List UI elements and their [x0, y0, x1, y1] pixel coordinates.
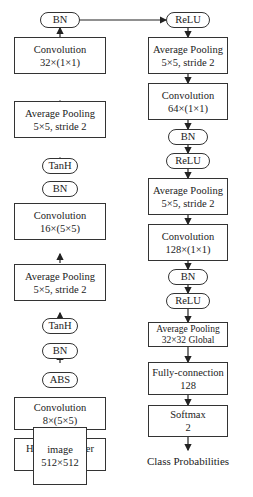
- relu-node-1: ReLU: [166, 12, 210, 28]
- bn-node-3: BN: [40, 12, 80, 28]
- node-sublabel: 5×5, stride 2: [15, 120, 105, 133]
- node-label: BN: [53, 14, 68, 25]
- node-label: ReLU: [175, 14, 201, 25]
- tanh-node-2: TanH: [42, 158, 78, 174]
- bn-node-5: BN: [168, 269, 208, 285]
- softmax-node: Softmax 2: [148, 405, 228, 437]
- average-pooling-node-1: Average Pooling 5×5, stride 2: [14, 264, 106, 301]
- node-label: TanH: [48, 160, 71, 171]
- average-pooling-node-4: Average Pooling 5×5, stride 2: [148, 178, 228, 215]
- node-label: ABS: [50, 374, 70, 385]
- node-label: ReLU: [175, 295, 201, 306]
- global-average-pooling-node: Average Pooling 32×32 Global: [148, 322, 228, 347]
- node-sublabel: 5×5, stride 2: [15, 283, 105, 296]
- node-label: Average Pooling: [15, 107, 105, 120]
- tanh-node-1: TanH: [42, 318, 78, 334]
- abs-node: ABS: [42, 372, 78, 388]
- node-label: Average Pooling: [149, 43, 227, 56]
- node-sublabel: 8×(5×5): [15, 414, 105, 427]
- node-label: ReLU: [175, 155, 201, 166]
- node-sublabel: 32×(1×1): [15, 56, 105, 69]
- node-label: Softmax: [149, 408, 227, 421]
- node-sublabel: 32×32 Global: [149, 335, 227, 346]
- average-pooling-node-3: Average Pooling 5×5, stride 2: [148, 37, 228, 74]
- node-label: Convolution: [149, 230, 227, 243]
- convolution-16-node: Convolution 16×(5×5): [14, 203, 106, 240]
- convolution-128-node: Convolution 128×(1×1): [148, 224, 228, 261]
- bn-node-2: BN: [42, 181, 78, 197]
- output-label: Class Probabilities: [138, 455, 238, 467]
- node-label: BN: [53, 183, 68, 194]
- node-label: Average Pooling: [149, 184, 227, 197]
- node-label: TanH: [48, 320, 71, 331]
- input-image-node: image 512×512: [33, 427, 87, 485]
- node-sublabel: 2: [149, 421, 227, 434]
- node-sublabel: 16×(5×5): [15, 222, 105, 235]
- node-sublabel: 128×(1×1): [149, 243, 227, 256]
- node-label: BN: [53, 345, 68, 356]
- node-label: Average Pooling: [149, 324, 227, 335]
- convolution-64-node: Convolution 64×(1×1): [148, 83, 228, 120]
- convolution-32-node: Convolution 32×(1×1): [14, 37, 106, 74]
- average-pooling-node-2: Average Pooling 5×5, stride 2: [14, 101, 106, 138]
- node-label: Convolution: [149, 89, 227, 102]
- node-label: BN: [181, 131, 196, 142]
- node-sublabel: 5×5, stride 2: [149, 197, 227, 210]
- relu-node-2: ReLU: [166, 153, 210, 169]
- node-label: Average Pooling: [15, 270, 105, 283]
- node-sublabel: 128: [149, 379, 227, 392]
- node-label: BN: [181, 271, 196, 282]
- node-label: Fully-connection: [149, 366, 227, 379]
- node-label: Convolution: [15, 43, 105, 56]
- node-label: image: [34, 443, 86, 456]
- node-label: Convolution: [15, 209, 105, 222]
- node-sublabel: 512×512: [34, 456, 86, 469]
- bn-node-4: BN: [168, 129, 208, 145]
- fully-connected-node: Fully-connection 128: [148, 362, 228, 395]
- bn-node-1: BN: [42, 343, 78, 359]
- relu-node-3: ReLU: [166, 293, 210, 309]
- node-label: Convolution: [15, 401, 105, 414]
- node-sublabel: 64×(1×1): [149, 102, 227, 115]
- node-sublabel: 5×5, stride 2: [149, 56, 227, 69]
- convolution-8-node: Convolution 8×(5×5): [14, 397, 106, 430]
